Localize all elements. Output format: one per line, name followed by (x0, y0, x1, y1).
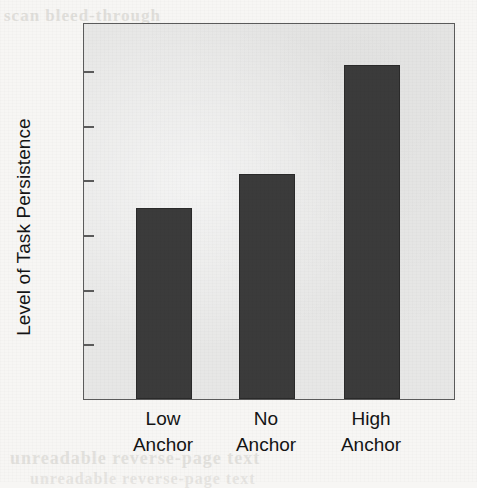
y-axis-tick-mark (83, 126, 94, 128)
bar-no-anchor (239, 174, 295, 399)
y-axis-tick-mark (83, 180, 94, 182)
plot-area (83, 23, 455, 400)
y-axis-tick-mark (83, 235, 94, 237)
bar-high-anchor (344, 65, 400, 399)
x-axis-label-line: High (306, 406, 436, 432)
y-axis-title: Level of Task Persistence (7, 39, 41, 416)
y-axis-tick-mark (83, 344, 94, 346)
bar-low-anchor (136, 208, 192, 399)
y-axis-tick-mark (83, 290, 94, 292)
y-axis-tick-mark (83, 71, 94, 73)
x-axis-label-line: Anchor (306, 432, 436, 458)
x-axis-label-high-anchor: HighAnchor (306, 406, 436, 458)
